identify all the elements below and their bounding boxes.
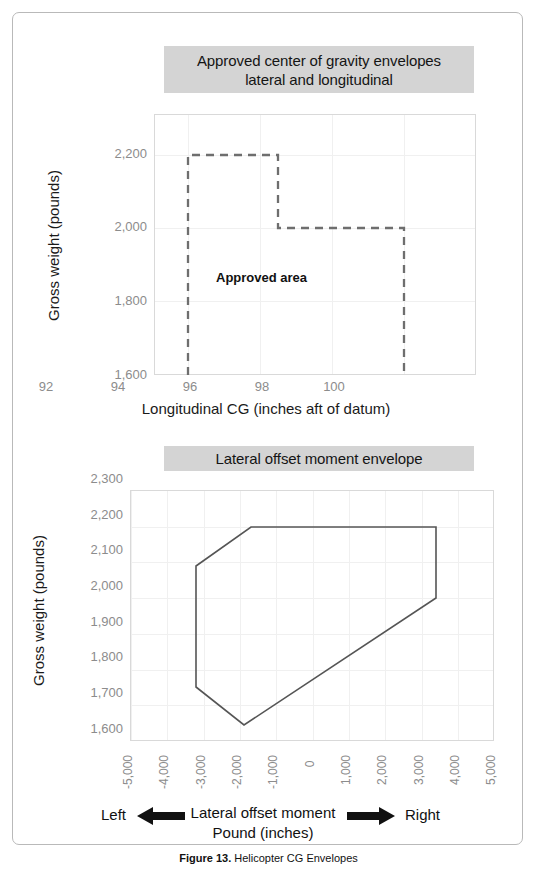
chart2-xtick--5000: -5,000 — [121, 742, 135, 802]
chart1-xtick-96: 96 — [170, 379, 210, 394]
chart1-plot-area: Approved area — [154, 114, 476, 375]
chart2-envelope-svg — [131, 491, 495, 742]
chart1-xtick-98: 98 — [242, 379, 282, 394]
figure-caption: Figure 13. Helicopter CG Envelopes — [0, 852, 537, 864]
figure-caption-text: Helicopter CG Envelopes — [231, 852, 358, 864]
chart1-xtick-100: 100 — [314, 379, 354, 394]
chart1-xtick-94: 94 — [98, 379, 138, 394]
chart1-ytick-2200: 2,200 — [89, 146, 147, 161]
chart2-lateral-envelope-path — [196, 527, 436, 725]
chart2-ytick-1800: 1,800 — [65, 649, 123, 664]
chart2-x-axis-title-line2: Pound (inches) — [188, 823, 338, 843]
chart1-ytick-1800: 1,800 — [89, 293, 147, 308]
chart2-ytick-1900: 1,900 — [65, 614, 123, 629]
chart1-xtick-92: 92 — [26, 379, 66, 394]
chart1-title-band: Approved center of gravity envelopes lat… — [164, 46, 474, 93]
chart2-x-axis-title-line1: Lateral offset moment — [188, 803, 338, 823]
figure-caption-label: Figure 13. — [179, 852, 231, 864]
chart2-ytick-2200: 2,200 — [65, 507, 123, 522]
figure-frame: Approved center of gravity envelopes lat… — [12, 12, 523, 845]
chart2-ytick-2100: 2,100 — [65, 542, 123, 557]
chart2-xtick-3000: 3,000 — [412, 740, 426, 800]
chart2-y-axis-title: Gross weight (pounds) — [30, 511, 47, 711]
chart2-plot-area — [130, 490, 494, 741]
chart1-y-axis-title: Gross weight (pounds) — [45, 146, 62, 346]
chart1-approved-envelope-path — [188, 155, 404, 375]
chart2-xtick-2000: 2,000 — [375, 740, 389, 800]
chart2-title-text: Lateral offset moment envelope — [216, 449, 423, 468]
chart1-approved-area-label: Approved area — [216, 270, 307, 285]
chart2-ytick-1700: 1,700 — [65, 685, 123, 700]
chart2-xtick--3000: -3,000 — [194, 742, 208, 802]
right-arrow-icon — [347, 806, 395, 826]
chart2-xtick-4000: 4,000 — [448, 740, 462, 800]
chart2-ytick-2000: 2,000 — [65, 578, 123, 593]
chart1-title-line1: Approved center of gravity envelopes — [197, 51, 441, 70]
chart1-envelope-svg — [155, 115, 477, 376]
chart2-title-band: Lateral offset moment envelope — [164, 446, 474, 471]
chart1-ytick-2000: 2,000 — [89, 219, 147, 234]
chart1-title-line2: lateral and longitudinal — [197, 70, 441, 89]
chart2-xtick-1000: 1,000 — [339, 740, 353, 800]
chart2-xtick-5000: 5,000 — [484, 740, 498, 800]
chart2-left-label: Left — [101, 806, 126, 823]
chart2-ytick-2300: 2,300 — [65, 471, 123, 486]
chart2-xtick--2000: -2,000 — [230, 742, 244, 802]
chart2-xtick--1000: -1,000 — [266, 742, 280, 802]
chart2-ytick-1600: 1,600 — [65, 721, 123, 736]
left-arrow-icon — [137, 806, 185, 826]
chart1-x-axis-title: Longitudinal CG (inches aft of datum) — [76, 400, 456, 417]
chart2-xtick--4000: -4,000 — [157, 742, 171, 802]
chart2-xtick-0: 0 — [303, 734, 317, 794]
chart2-right-label: Right — [405, 806, 440, 823]
